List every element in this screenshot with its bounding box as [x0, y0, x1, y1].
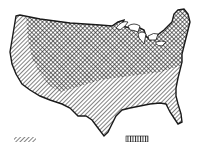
legend-swatch-diagonal — [14, 137, 36, 142]
us-region-map — [0, 0, 197, 142]
legend — [14, 136, 148, 142]
legend-swatch-vertical — [126, 136, 148, 142]
map-canvas — [0, 0, 197, 142]
